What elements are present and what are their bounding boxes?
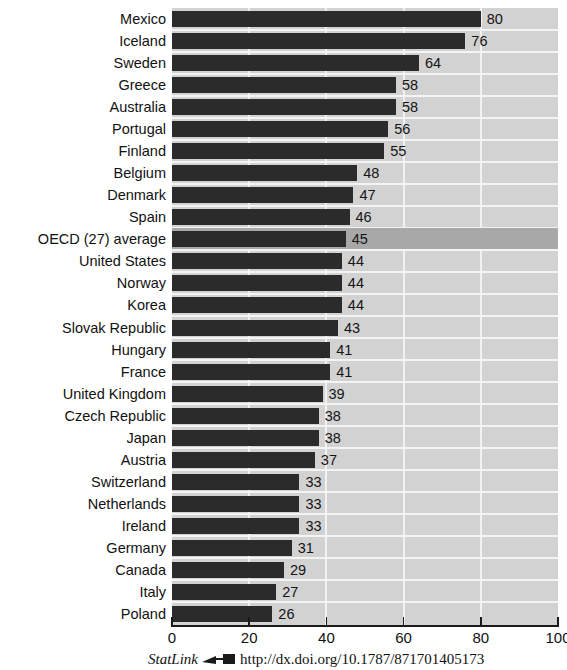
category-label: Norway <box>0 272 166 294</box>
statlink-label: StatLink <box>148 651 198 668</box>
bar-row: 31 <box>172 537 558 559</box>
bar-rows: 8076645858565548474645444444434141393838… <box>172 8 558 625</box>
bar-value-label: 55 <box>390 141 406 161</box>
bar-row: 33 <box>172 471 558 493</box>
bar-row: 47 <box>172 184 558 206</box>
bar <box>172 11 481 27</box>
category-label: Finland <box>0 140 166 162</box>
bar-value-label: 38 <box>325 428 341 448</box>
bar-value-label: 58 <box>402 97 418 117</box>
bar-value-label: 46 <box>356 207 372 227</box>
bar <box>172 99 396 115</box>
category-label: Ireland <box>0 515 166 537</box>
bar <box>172 562 284 578</box>
bar-value-label: 27 <box>282 582 298 602</box>
category-label: OECD (27) average <box>0 228 166 250</box>
category-label: Poland <box>0 603 166 625</box>
statlink-footer[interactable]: StatLink http://dx.doi.org/10.1787/87170… <box>148 651 567 668</box>
bar <box>172 253 342 269</box>
category-label: Netherlands <box>0 493 166 515</box>
statlink-url[interactable]: http://dx.doi.org/10.1787/871701405173 <box>240 651 484 668</box>
category-label: Greece <box>0 74 166 96</box>
category-label: Spain <box>0 206 166 228</box>
bar-row: 76 <box>172 30 558 52</box>
x-tick-label: 20 <box>241 629 258 646</box>
bar-row: 37 <box>172 449 558 471</box>
bar <box>172 364 330 380</box>
bar-value-label: 41 <box>336 362 352 382</box>
bar-row: 33 <box>172 493 558 515</box>
bar <box>172 143 384 159</box>
bar-row: 33 <box>172 515 558 537</box>
bar-row: 48 <box>172 162 558 184</box>
category-axis-labels: MexicoIcelandSwedenGreeceAustraliaPortug… <box>0 8 166 625</box>
statlink-arrow-icon <box>202 653 236 666</box>
x-tick-60 <box>403 617 405 627</box>
bar <box>172 275 342 291</box>
bar-row: 58 <box>172 96 558 118</box>
bar-row: 41 <box>172 339 558 361</box>
bar-row: 38 <box>172 405 558 427</box>
category-label: Switzerland <box>0 471 166 493</box>
bar <box>172 231 346 247</box>
bar <box>172 518 299 534</box>
category-label: Hungary <box>0 339 166 361</box>
bar <box>172 187 353 203</box>
category-label: Australia <box>0 96 166 118</box>
x-tick-label: 60 <box>395 629 412 646</box>
bar-value-label: 58 <box>402 75 418 95</box>
category-label: Portugal <box>0 118 166 140</box>
bar-row: 80 <box>172 8 558 30</box>
bar <box>172 496 299 512</box>
category-label: Slovak Republic <box>0 317 166 339</box>
bar-value-label: 64 <box>425 53 441 73</box>
bar <box>172 408 319 424</box>
bar-row: 46 <box>172 206 558 228</box>
bar-value-label: 47 <box>359 185 375 205</box>
category-label: United Kingdom <box>0 383 166 405</box>
category-label: Canada <box>0 559 166 581</box>
bar <box>172 386 323 402</box>
category-label: Iceland <box>0 30 166 52</box>
bar-row: 41 <box>172 361 558 383</box>
bar <box>172 320 338 336</box>
x-tick-40 <box>326 617 328 627</box>
category-label: Korea <box>0 294 166 316</box>
bar-value-label: 56 <box>394 119 410 139</box>
bar-value-label: 39 <box>329 384 345 404</box>
bar <box>172 430 319 446</box>
x-tick-20 <box>248 617 250 627</box>
bar-row: 58 <box>172 74 558 96</box>
bar-value-label: 44 <box>348 295 364 315</box>
category-label: Sweden <box>0 52 166 74</box>
bar-value-label: 26 <box>278 604 294 624</box>
category-label: Belgium <box>0 162 166 184</box>
bar-row: 56 <box>172 118 558 140</box>
bar-value-label: 33 <box>305 516 321 536</box>
bar-row: 38 <box>172 427 558 449</box>
bar-value-label: 80 <box>487 9 503 29</box>
x-tick-label: 80 <box>472 629 489 646</box>
category-label: Denmark <box>0 184 166 206</box>
bar <box>172 606 272 622</box>
bar-value-label: 37 <box>321 450 337 470</box>
category-label: Japan <box>0 427 166 449</box>
bar <box>172 33 465 49</box>
bar-row: 26 <box>172 603 558 625</box>
bar <box>172 452 315 468</box>
category-label: Czech Republic <box>0 405 166 427</box>
x-tick-0 <box>171 617 173 627</box>
category-label: Germany <box>0 537 166 559</box>
x-axis-line <box>172 625 558 627</box>
bar-value-label: 33 <box>305 472 321 492</box>
bar <box>172 342 330 358</box>
bar-value-label: 33 <box>305 494 321 514</box>
bar-value-label: 44 <box>348 273 364 293</box>
bar <box>172 77 396 93</box>
bar-row: 44 <box>172 250 558 272</box>
category-label: United States <box>0 250 166 272</box>
bar-value-label: 76 <box>471 31 487 51</box>
category-label: Mexico <box>0 8 166 30</box>
bar-row: 64 <box>172 52 558 74</box>
bar <box>172 540 292 556</box>
